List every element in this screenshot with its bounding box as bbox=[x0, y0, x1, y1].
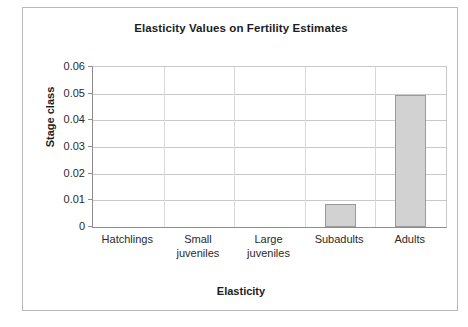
y-tick-label-0.03: 0.03 bbox=[64, 140, 85, 152]
x-category-label-hatchlings: Hatchlings bbox=[87, 232, 167, 246]
x-category-label-line: juveniles bbox=[229, 246, 309, 260]
x-category-label-line: Large bbox=[229, 232, 309, 246]
x-category-label-subadults: Subadults bbox=[299, 232, 379, 246]
chart-title: Elasticity Values on Fertility Estimates bbox=[23, 22, 459, 34]
gridline-0.03 bbox=[93, 147, 446, 148]
category-divider-4 bbox=[375, 67, 376, 227]
x-axis-title: Elasticity bbox=[23, 285, 459, 297]
y-tick-label-0.06: 0.06 bbox=[64, 60, 85, 72]
gridline-0.01 bbox=[93, 200, 446, 201]
gridline-0.04 bbox=[93, 120, 446, 121]
x-category-label-line: Adults bbox=[370, 232, 450, 246]
bar-subadults[interactable] bbox=[325, 204, 356, 227]
x-category-label-small-juveniles: Small juveniles bbox=[158, 232, 238, 260]
bar-adults[interactable] bbox=[395, 95, 426, 228]
y-tick-label-0.04: 0.04 bbox=[64, 113, 85, 125]
x-category-label-line: Hatchlings bbox=[87, 232, 167, 246]
plot-area bbox=[92, 66, 447, 228]
y-tick-label-0.02: 0.02 bbox=[64, 167, 85, 179]
category-divider-1 bbox=[164, 67, 165, 227]
gridline-0.02 bbox=[93, 174, 446, 175]
y-tick-label-0.01: 0.01 bbox=[64, 193, 85, 205]
y-tick-label-0.05: 0.05 bbox=[64, 87, 85, 99]
chart-frame: Elasticity Values on Fertility Estimates… bbox=[22, 7, 458, 311]
y-axis-title: Stage class bbox=[44, 62, 56, 172]
x-category-label-large-juveniles: Large juveniles bbox=[229, 232, 309, 260]
x-category-label-line: Subadults bbox=[299, 232, 379, 246]
y-tick-label-0: 0 bbox=[79, 220, 85, 232]
category-divider-3 bbox=[305, 67, 306, 227]
x-category-label-adults: Adults bbox=[370, 232, 450, 246]
category-divider-2 bbox=[234, 67, 235, 227]
x-category-label-line: Small bbox=[158, 232, 238, 246]
gridline-0.05 bbox=[93, 94, 446, 95]
x-category-label-line: juveniles bbox=[158, 246, 238, 260]
